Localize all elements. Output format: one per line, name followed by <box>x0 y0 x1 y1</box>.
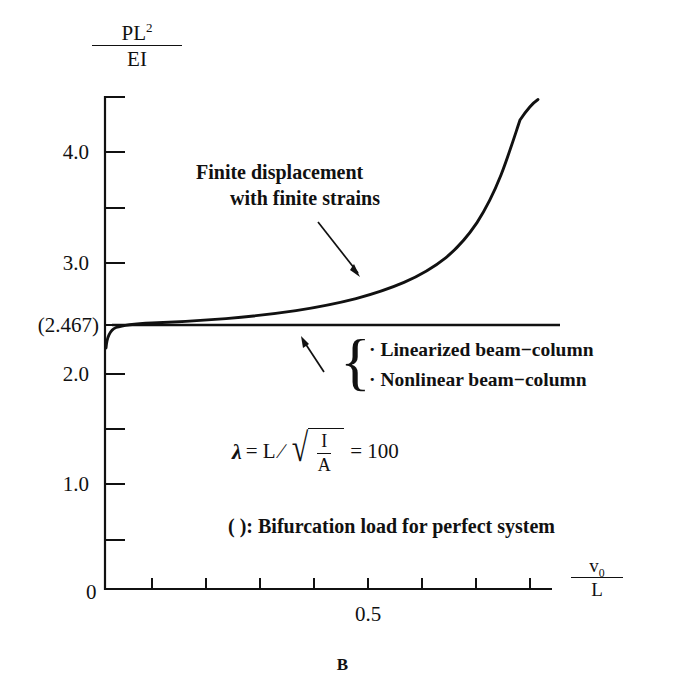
y-axis-label-exponent: 2 <box>146 20 153 35</box>
figure-panel: PL2 EI 4.0 3.0 (2.467) 2.0 1.0 0 0.5 v0 … <box>0 0 695 700</box>
lambda-equals-L: = L <box>246 439 276 464</box>
annotation-arrow-finite <box>318 222 360 277</box>
annotation-slenderness-formula: λ = L ∕ √ I A = 100 <box>232 428 399 476</box>
y-axis-label-numerator: PL2 <box>92 22 182 46</box>
annotation-arrow-beam-column <box>301 336 324 372</box>
annotation-finite-line-1: Finite displacement <box>196 161 363 183</box>
y-tick-label-bifurcation: (2.467) <box>38 313 99 338</box>
x-axis-label-numerator: v0 <box>571 556 623 578</box>
radicand-numerator: I <box>317 432 331 454</box>
figure-caption: B <box>0 655 695 675</box>
square-root-icon: √ I A <box>289 428 344 476</box>
legend-item-nonlinear-beam-column: · Nonlinear beam−column <box>369 365 594 395</box>
legend: · Linearized beam−column · Nonlinear bea… <box>369 335 594 395</box>
origin-label: 0 <box>86 580 97 605</box>
y-tick-label-4.0: 4.0 <box>63 140 89 165</box>
y-tick-label-2.0: 2.0 <box>63 362 89 387</box>
lambda-divide-slash: ∕ <box>280 439 284 464</box>
x-tick-label-0.5: 0.5 <box>355 602 381 627</box>
annotation-finite-line-2: with finite strains <box>196 186 380 212</box>
lambda-symbol: λ <box>232 439 242 465</box>
curly-brace-icon: { <box>340 330 366 400</box>
series-curve-finite-displacement <box>106 100 538 349</box>
figure-caption-text: B <box>337 655 348 675</box>
lambda-value: = 100 <box>350 439 399 464</box>
y-tick-label-3.0: 3.0 <box>63 251 89 276</box>
legend-item-linearized-beam-column: · Linearized beam−column <box>369 335 594 365</box>
x-axis-label: v0 L <box>571 556 623 600</box>
x-axis-label-denominator: L <box>571 578 623 600</box>
x-axis-label-subscript: 0 <box>599 567 605 580</box>
annotation-bifurcation-note: ( ): Bifurcation load for perfect system <box>228 514 555 540</box>
x-axis-ticks <box>152 578 530 589</box>
radicand-fraction: I A <box>308 428 344 476</box>
radicand-denominator: A <box>317 454 331 476</box>
y-axis-label: PL2 EI <box>92 22 182 70</box>
y-tick-label-1.0: 1.0 <box>63 472 89 497</box>
y-axis-ticks <box>105 97 125 540</box>
annotation-finite-displacement: Finite displacement with finite strains <box>196 160 380 211</box>
y-axis-label-denominator: EI <box>92 46 182 70</box>
